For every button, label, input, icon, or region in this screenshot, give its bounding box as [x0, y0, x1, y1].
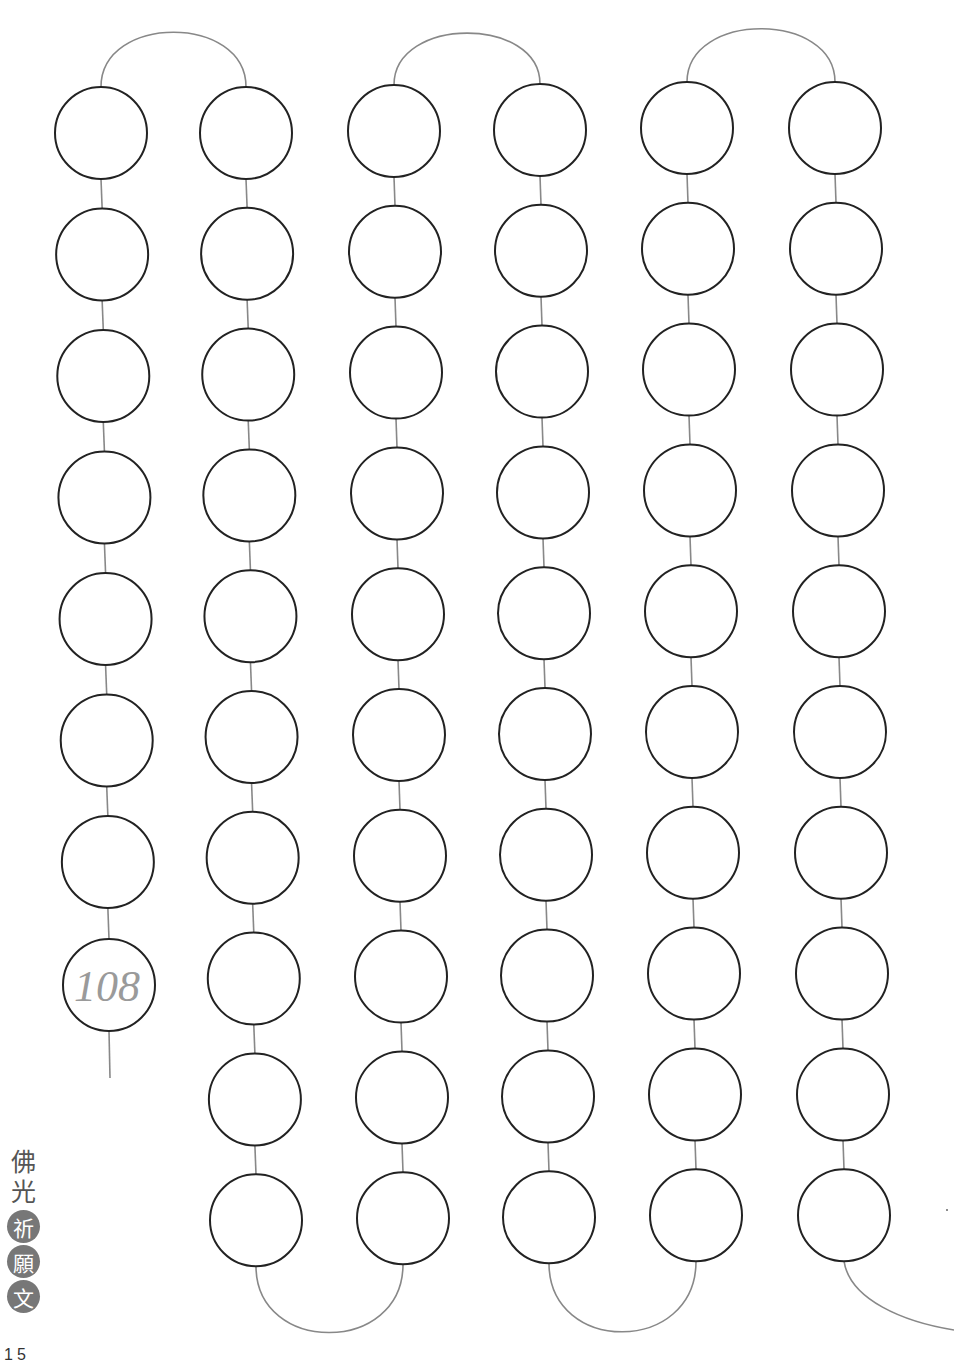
- bead: [795, 807, 887, 899]
- bead: [351, 447, 443, 539]
- string-segment: [688, 295, 689, 324]
- bead: [356, 1051, 448, 1143]
- string-segment: [690, 536, 691, 565]
- string-segment: [399, 781, 400, 810]
- bead: [796, 928, 888, 1020]
- title-char-2: 光: [11, 1178, 36, 1208]
- string-segment: [401, 1023, 402, 1052]
- string-segment: [543, 538, 544, 567]
- bead: [210, 1174, 302, 1266]
- string-segment: [102, 301, 103, 331]
- string-segment: [247, 300, 248, 329]
- string-segment: [691, 657, 692, 686]
- bead: [207, 812, 299, 904]
- bead: [500, 809, 592, 901]
- book-title-vertical: 佛 光 祈 願 文: [5, 1148, 41, 1313]
- string-segment: [101, 32, 246, 87]
- bead: [348, 85, 440, 177]
- bead: [642, 203, 734, 295]
- bead: [503, 1171, 595, 1263]
- bead: [502, 1050, 594, 1142]
- string-segment: [398, 660, 399, 689]
- bead: [494, 84, 586, 176]
- bead: [649, 1048, 741, 1140]
- bead: [789, 82, 881, 174]
- string-segment: [548, 1142, 549, 1171]
- string-segment: [844, 1261, 954, 1330]
- string-segment: [842, 1020, 843, 1049]
- string-segment: [107, 787, 108, 817]
- string-segment: [695, 1140, 696, 1169]
- bead: [200, 87, 292, 179]
- bead: [648, 928, 740, 1020]
- string-segment: [836, 295, 837, 324]
- string-segment: [256, 1264, 403, 1332]
- bead: [643, 324, 735, 416]
- string-segment: [109, 1031, 110, 1078]
- bead: [204, 570, 296, 662]
- string-segment: [397, 539, 398, 568]
- bead: [647, 807, 739, 899]
- bead: [646, 686, 738, 778]
- string-segment: [547, 1022, 548, 1051]
- string-segment: [400, 902, 401, 931]
- string-segment: [692, 778, 693, 807]
- title-badge-2: 願: [7, 1245, 40, 1278]
- string-segment: [246, 179, 247, 208]
- string-segment: [541, 297, 542, 326]
- bead: [203, 449, 295, 541]
- string-segment: [687, 174, 688, 203]
- page-number: 15: [4, 1346, 30, 1364]
- bead: [793, 565, 885, 657]
- string-segment: [689, 416, 690, 445]
- title-char-1: 佛: [11, 1148, 36, 1178]
- bead: [56, 209, 148, 301]
- bead: [499, 688, 591, 780]
- bead: [62, 816, 154, 908]
- bead-circles: [55, 82, 890, 1266]
- string-segment: [253, 904, 254, 933]
- title-badge-3: 文: [7, 1280, 40, 1313]
- bead: [58, 452, 150, 544]
- string-segment: [249, 541, 250, 570]
- string-segment: [837, 416, 838, 445]
- string-segment: [843, 1140, 844, 1169]
- bead: [61, 695, 153, 787]
- string-segment: [694, 1020, 695, 1049]
- string-segment: [542, 418, 543, 447]
- bead: [57, 330, 149, 422]
- string-segment: [839, 657, 840, 686]
- bead: [349, 206, 441, 298]
- string-segment: [838, 536, 839, 565]
- string-segment: [395, 298, 396, 327]
- bead: [201, 208, 293, 300]
- bead: [644, 444, 736, 536]
- bead: [350, 327, 442, 419]
- string-segment: [396, 419, 397, 448]
- string-segment: [252, 783, 253, 812]
- string-segment: [101, 179, 102, 209]
- bead: [206, 691, 298, 783]
- string-segment: [540, 176, 541, 205]
- string-segment: [840, 778, 841, 807]
- string-segment: [402, 1143, 403, 1172]
- bead: [645, 565, 737, 657]
- bead: [495, 205, 587, 297]
- string-segment: [108, 908, 109, 939]
- final-bead-label: 108: [74, 962, 140, 1011]
- string-segment: [544, 659, 545, 688]
- bead: [496, 326, 588, 418]
- title-badge-1: 祈: [7, 1210, 40, 1243]
- string-segment: [248, 421, 249, 450]
- string-segment: [103, 422, 104, 452]
- bead: [501, 930, 593, 1022]
- bead: [354, 810, 446, 902]
- bead: [352, 568, 444, 660]
- bead: [357, 1172, 449, 1264]
- string-segment: [250, 662, 251, 691]
- bead: [497, 446, 589, 538]
- string-segment: [549, 1261, 696, 1332]
- bead: [791, 324, 883, 416]
- bead: [792, 444, 884, 536]
